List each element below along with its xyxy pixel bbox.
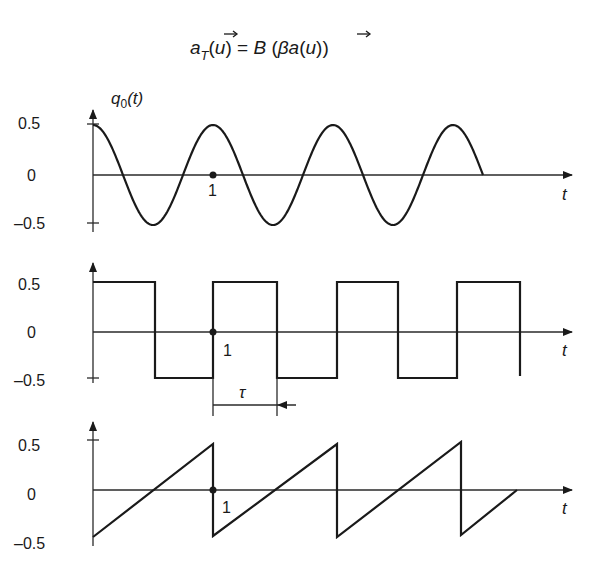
panel-sawtooth: 0.5 0 –0.5 t 1 bbox=[14, 422, 572, 552]
arrow-left-icon bbox=[277, 401, 287, 409]
x-axis-label: t bbox=[562, 499, 568, 518]
y-tick-label: 0.5 bbox=[18, 276, 40, 293]
panel-cosine: 0.5 0 –0.5 q0(t) t 1 bbox=[14, 89, 572, 232]
y-tick-label: 0 bbox=[27, 324, 36, 341]
tau-label: τ bbox=[239, 383, 247, 402]
y-tick-label: 0.5 bbox=[18, 115, 40, 132]
y-tick-label: 0 bbox=[27, 486, 36, 503]
point-label: 1 bbox=[223, 342, 232, 359]
y-axis-label: q0(t) bbox=[111, 89, 143, 111]
waveform-figure: aT(u) = B (βa(u)) 0.5 0 –0.5 q0(t) t 1 0… bbox=[0, 0, 599, 578]
y-tick-label: –0.5 bbox=[14, 215, 45, 232]
formula-text: aT(u) = B (βa(u)) bbox=[190, 37, 329, 63]
y-tick-label: 0.5 bbox=[18, 437, 40, 454]
marked-point bbox=[210, 487, 217, 494]
point-label: 1 bbox=[208, 182, 217, 199]
y-tick-label: 0 bbox=[27, 167, 36, 184]
x-axis-label: t bbox=[562, 185, 568, 204]
point-label: 1 bbox=[222, 499, 231, 516]
x-axis-label: t bbox=[562, 341, 568, 360]
y-tick-label: –0.5 bbox=[14, 535, 45, 552]
marked-point bbox=[210, 329, 217, 336]
formula: aT(u) = B (βa(u)) bbox=[190, 31, 370, 63]
marked-point bbox=[210, 172, 217, 179]
panel-square: 0.5 0 –0.5 t 1 τ bbox=[14, 263, 572, 416]
square-wave bbox=[93, 282, 520, 378]
y-tick-label: –0.5 bbox=[14, 372, 45, 389]
